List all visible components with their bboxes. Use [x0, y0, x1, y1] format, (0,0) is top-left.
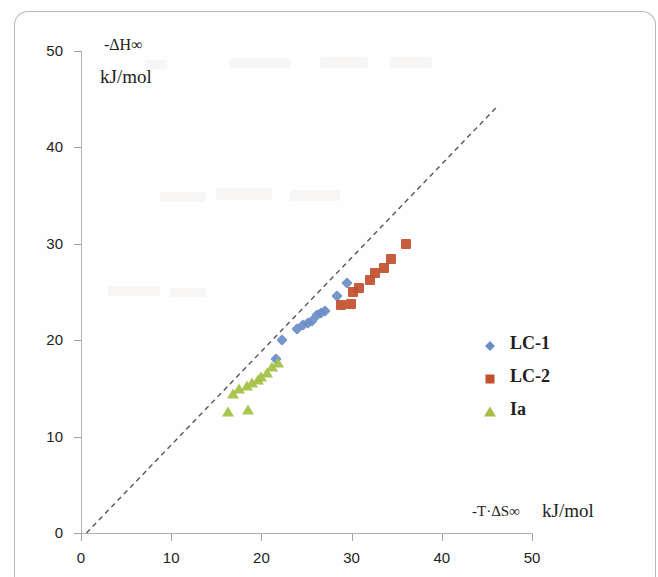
- data-point-lc-2: [401, 239, 411, 249]
- data-point-ia: [272, 358, 284, 368]
- x-tick: [261, 534, 262, 541]
- y-axis-unit-label: kJ/mol: [100, 66, 152, 88]
- data-point-lc-2: [336, 300, 346, 310]
- y-tick-label: 0: [15, 524, 63, 541]
- y-tick: [74, 51, 81, 52]
- x-axis-line: [81, 533, 533, 534]
- chart-legend: LC-1LC-2Ia: [470, 333, 590, 432]
- data-point-lc-2: [386, 254, 396, 264]
- y-tick: [74, 147, 81, 148]
- plot-canvas: [0, 0, 658, 577]
- diamond-marker-icon: [485, 341, 495, 351]
- data-point-lc-2: [379, 263, 389, 273]
- data-point-lc-2: [346, 299, 356, 309]
- scanned-figure-page: 01020304050 01020304050 -ΔH∞ kJ/mol -T·Δ…: [0, 0, 658, 577]
- legend-label: Ia: [510, 399, 526, 420]
- data-point-ia: [242, 404, 254, 414]
- trendline: [86, 108, 496, 533]
- y-tick: [74, 533, 81, 534]
- square-marker-icon: [486, 375, 495, 384]
- y-tick: [74, 244, 81, 245]
- x-axis-unit-label: kJ/mol: [542, 500, 594, 522]
- x-tick: [81, 534, 82, 541]
- x-tick-label: 50: [512, 549, 552, 566]
- y-axis-line: [81, 51, 82, 534]
- legend-item-ia[interactable]: Ia: [470, 399, 590, 432]
- y-tick-label: 50: [15, 42, 63, 59]
- x-axis-title: -T·ΔS∞: [472, 503, 520, 520]
- y-tick: [74, 340, 81, 341]
- y-tick-label: 20: [15, 331, 63, 348]
- triangle-marker-icon: [484, 407, 496, 417]
- x-tick-label: 30: [332, 549, 372, 566]
- x-tick: [171, 534, 172, 541]
- x-tick-label: 10: [151, 549, 191, 566]
- data-point-lc-2: [354, 283, 364, 293]
- x-tick-label: 20: [241, 549, 281, 566]
- x-tick: [532, 534, 533, 541]
- trendline-path: [86, 108, 496, 533]
- y-axis-title: -ΔH∞: [104, 36, 143, 54]
- legend-item-lc-2[interactable]: LC-2: [470, 366, 590, 399]
- x-tick-label: 40: [422, 549, 462, 566]
- data-point-ia: [222, 406, 234, 416]
- x-tick-label: 0: [61, 549, 101, 566]
- x-tick: [352, 534, 353, 541]
- legend-label: LC-2: [510, 366, 550, 387]
- legend-item-lc-1[interactable]: LC-1: [470, 333, 590, 366]
- y-tick-label: 40: [15, 138, 63, 155]
- y-tick: [74, 437, 81, 438]
- x-tick: [442, 534, 443, 541]
- legend-label: LC-1: [510, 333, 550, 354]
- y-tick-label: 10: [15, 428, 63, 445]
- y-tick-label: 30: [15, 235, 63, 252]
